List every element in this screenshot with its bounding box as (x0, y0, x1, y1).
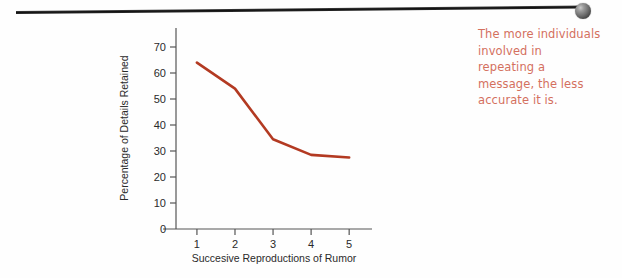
callout-note: The more individuals involved in repeati… (478, 26, 616, 109)
y-axis-tick-labels: 010203040506070 (154, 41, 166, 235)
sphere-pin-head-icon (575, 3, 591, 19)
x-tick-label: 3 (270, 238, 276, 250)
figure-page: The more individuals involved in repeati… (0, 0, 622, 278)
y-axis-title: Percentage of Details Retained (118, 55, 130, 200)
x-tick-label: 5 (346, 238, 352, 250)
y-tick-label: 10 (154, 197, 166, 209)
y-tick-label: 50 (154, 93, 166, 105)
x-tick-label: 2 (232, 238, 238, 250)
callout-line-3: repeating a (478, 59, 616, 76)
y-tick-label: 20 (154, 171, 166, 183)
callout-line-2: involved in (478, 43, 616, 60)
y-tick-label: 30 (154, 145, 166, 157)
y-tick-label: 0 (160, 223, 166, 235)
y-tick-label: 40 (154, 119, 166, 131)
y-axis-ticks (170, 47, 176, 203)
chart-svg: 010203040506070 12345 Succesive Reproduc… (0, 0, 420, 278)
y-tick-label: 70 (154, 41, 166, 53)
data-series-line (197, 63, 349, 158)
x-axis-ticks (197, 229, 349, 235)
x-tick-label: 4 (308, 238, 314, 250)
callout-line-4: message, the less (478, 76, 616, 93)
line-chart: 010203040506070 12345 Succesive Reproduc… (0, 0, 420, 278)
x-tick-label: 1 (194, 238, 200, 250)
callout-line-5: accurate it is. (478, 92, 616, 109)
callout-line-1: The more individuals (478, 26, 616, 43)
x-axis-tick-labels: 12345 (194, 238, 352, 250)
x-axis-title: Succesive Reproductions of Rumor (192, 252, 357, 264)
y-tick-label: 60 (154, 67, 166, 79)
